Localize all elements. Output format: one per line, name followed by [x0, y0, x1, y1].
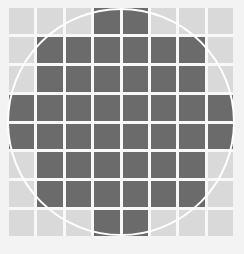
filled-cell	[208, 95, 233, 121]
filled-cell	[123, 66, 148, 92]
filled-cell	[179, 124, 204, 150]
filled-cell	[179, 66, 204, 92]
empty-cell	[208, 181, 233, 207]
filled-cell	[123, 37, 148, 63]
filled-cell	[66, 95, 91, 121]
filled-cell	[179, 152, 204, 178]
filled-cell	[94, 124, 119, 150]
empty-cell	[208, 152, 233, 178]
filled-cell	[123, 152, 148, 178]
filled-cell	[94, 210, 119, 236]
empty-cell	[208, 8, 233, 34]
filled-cell	[66, 66, 91, 92]
empty-cell	[9, 181, 34, 207]
filled-cell	[151, 66, 176, 92]
empty-cell	[9, 37, 34, 63]
filled-cell	[151, 37, 176, 63]
filled-cell	[94, 152, 119, 178]
filled-cell	[37, 152, 62, 178]
filled-cell	[66, 152, 91, 178]
filled-cell	[94, 8, 119, 34]
empty-cell	[37, 210, 62, 236]
filled-cell	[151, 95, 176, 121]
filled-cell	[208, 124, 233, 150]
filled-cell	[37, 37, 62, 63]
filled-cell	[66, 181, 91, 207]
filled-cell	[179, 181, 204, 207]
empty-cell	[208, 210, 233, 236]
empty-cell	[37, 8, 62, 34]
empty-cell	[9, 210, 34, 236]
empty-cell	[9, 152, 34, 178]
filled-cell	[179, 37, 204, 63]
filled-cell	[151, 152, 176, 178]
filled-cell	[66, 124, 91, 150]
filled-cell	[37, 124, 62, 150]
empty-cell	[208, 66, 233, 92]
empty-cell	[208, 37, 233, 63]
empty-cell	[179, 210, 204, 236]
filled-cell	[123, 8, 148, 34]
empty-cell	[9, 66, 34, 92]
filled-cell	[94, 66, 119, 92]
filled-cell	[151, 124, 176, 150]
filled-cell	[94, 95, 119, 121]
filled-cell	[37, 181, 62, 207]
filled-cell	[37, 95, 62, 121]
empty-cell	[66, 210, 91, 236]
filled-cell	[123, 124, 148, 150]
empty-cell	[66, 8, 91, 34]
filled-cell	[66, 37, 91, 63]
filled-cell	[94, 181, 119, 207]
filled-cell	[9, 124, 34, 150]
filled-cell	[123, 95, 148, 121]
empty-cell	[9, 8, 34, 34]
empty-cell	[151, 8, 176, 34]
filled-cell	[37, 66, 62, 92]
pixel-grid	[9, 8, 233, 236]
filled-cell	[123, 181, 148, 207]
empty-cell	[179, 8, 204, 34]
filled-cell	[179, 95, 204, 121]
filled-cell	[151, 181, 176, 207]
empty-cell	[151, 210, 176, 236]
filled-cell	[123, 210, 148, 236]
filled-cell	[94, 37, 119, 63]
filled-cell	[9, 95, 34, 121]
